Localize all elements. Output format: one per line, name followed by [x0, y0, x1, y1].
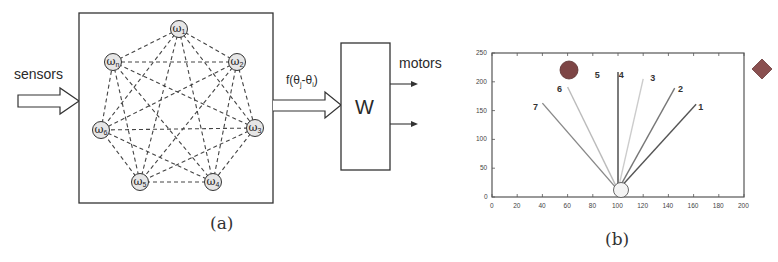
node-index: 1: [182, 28, 186, 35]
x-tick-label: 60: [564, 202, 571, 209]
y-tick-label: 0: [484, 193, 488, 200]
x-tick-label: 0: [490, 202, 494, 209]
x-tick-label: 40: [538, 202, 545, 209]
y-tick-label: 150: [476, 107, 487, 114]
robot-body: [614, 183, 629, 198]
x-tick-label: 20: [513, 202, 520, 209]
oscillator-node-w5: ω5: [131, 173, 149, 191]
node-index: 4: [216, 181, 220, 188]
oscillator-network-box: [79, 13, 273, 203]
node-index: 6: [104, 129, 108, 136]
x-tick-label: 80: [589, 202, 596, 209]
ball-target: [560, 61, 578, 79]
panel-b-plot: [492, 53, 772, 198]
motors-label: motors: [399, 55, 442, 71]
oscillator-node-wn: ωn: [104, 53, 122, 71]
omega-symbol: ω: [207, 175, 216, 188]
oscillator-node-w1: ω1: [170, 20, 188, 38]
transfer-end: ): [314, 73, 318, 87]
ray-label-4: 4: [619, 70, 624, 80]
node-index: 2: [240, 61, 244, 68]
ray-label-5: 5: [595, 70, 600, 80]
y-tick-label: 250: [476, 49, 487, 56]
x-tick-label: 200: [738, 202, 749, 209]
sensors-label: sensors: [14, 66, 63, 82]
x-tick-label: 140: [662, 202, 673, 209]
motor-output-arrows: [390, 81, 418, 127]
ray-label-1: 1: [698, 102, 703, 112]
y-tick-label: 200: [476, 78, 487, 85]
ray-label-6: 6: [557, 84, 562, 94]
node-index: 5: [143, 181, 147, 188]
x-tick-label: 180: [713, 202, 724, 209]
x-tick-label: 100: [612, 202, 623, 209]
omega-symbol: ω: [134, 175, 143, 188]
oscillator-node-w6: ω6: [92, 121, 110, 139]
caption-b: (b): [605, 229, 629, 249]
oscillator-node-w2: ω2: [228, 53, 246, 71]
omega-symbol: ω: [107, 55, 116, 68]
omega-symbol: ω: [95, 123, 104, 136]
x-tick-label: 120: [637, 202, 648, 209]
omega-symbol: ω: [231, 55, 240, 68]
ray-label-3: 3: [650, 73, 655, 83]
oscillator-node-w3: ω3: [246, 119, 264, 137]
x-tick-label: 160: [688, 202, 699, 209]
transfer-mid: -θ: [302, 73, 313, 87]
sensors-input-arrow: [18, 88, 79, 114]
caption-a: (a): [210, 213, 233, 233]
transfer-f: f(θ: [286, 73, 300, 87]
omega-symbol: ω: [173, 22, 182, 35]
y-tick-label: 50: [480, 164, 487, 171]
node-index: n: [116, 61, 120, 68]
oscillator-node-w4: ω4: [204, 173, 222, 191]
diamond-target-icon: [752, 59, 772, 79]
phase-difference-arrow: [273, 92, 341, 118]
node-index: 3: [258, 127, 262, 134]
ray-label-7: 7: [533, 102, 538, 112]
transfer-function-label: f(θj-θi): [286, 73, 318, 88]
y-tick-label: 100: [476, 135, 487, 142]
ray-label-2: 2: [678, 84, 683, 94]
omega-symbol: ω: [249, 121, 258, 134]
weight-block-label: W: [355, 96, 374, 119]
